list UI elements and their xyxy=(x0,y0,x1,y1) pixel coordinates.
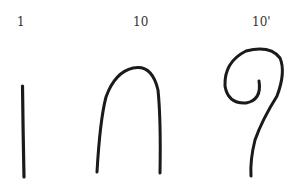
spiral-stroke-glyph xyxy=(225,49,282,176)
glyph-diagram xyxy=(0,0,295,188)
vertical-stroke-glyph xyxy=(23,86,25,177)
arch-stroke-glyph xyxy=(97,67,160,173)
